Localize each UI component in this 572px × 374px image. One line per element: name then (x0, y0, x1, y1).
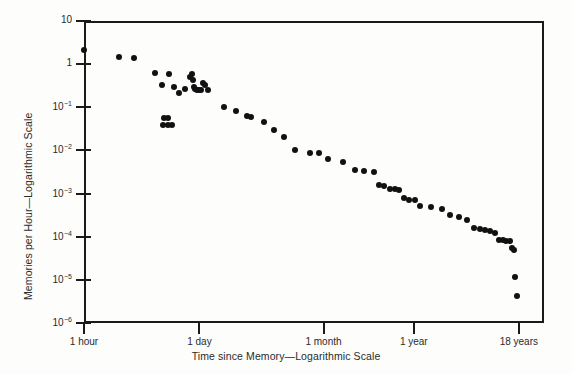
x-axis-tick-label: 1 year (400, 336, 428, 347)
data-point (190, 77, 196, 83)
scatter-plot-area (84, 21, 544, 323)
data-point (371, 169, 377, 175)
data-point (159, 82, 165, 88)
data-point (514, 293, 520, 299)
data-point (512, 274, 518, 280)
data-point (131, 55, 137, 61)
data-point (507, 238, 513, 244)
data-point (271, 127, 277, 133)
data-point (233, 108, 239, 114)
x-axis-tick-label: 1 hour (70, 336, 98, 347)
data-point (261, 119, 267, 125)
x-axis-tick-mark (83, 323, 85, 334)
data-point (412, 197, 418, 203)
data-point (171, 84, 177, 90)
data-point (152, 70, 158, 76)
data-point (221, 104, 227, 110)
data-point (182, 86, 188, 92)
data-point (439, 206, 445, 212)
data-point (316, 150, 322, 156)
data-point (292, 147, 298, 153)
data-point (325, 156, 331, 162)
data-point (169, 122, 175, 128)
data-point (198, 87, 204, 93)
x-axis-tick-label: 18 years (500, 336, 538, 347)
x-axis-tick-mark (323, 323, 325, 334)
data-point (361, 168, 367, 174)
data-point (464, 217, 470, 223)
data-point (417, 203, 423, 209)
chart-page: 10110−110−210−310−410−510−6 1 hour1 day1… (0, 0, 572, 374)
x-axis-tick-label: 1 day (187, 336, 211, 347)
y-axis-title: Memories per Hour—Logarithmic Scale (22, 113, 34, 300)
x-axis-tick-label: 1 month (305, 336, 341, 347)
x-axis-tick-mark (413, 323, 415, 334)
data-point (116, 54, 122, 60)
data-point (165, 115, 171, 121)
data-point (352, 167, 358, 173)
data-point (205, 87, 211, 93)
data-point (340, 159, 346, 165)
data-point (307, 150, 313, 156)
data-point (406, 197, 412, 203)
data-point (81, 47, 87, 53)
x-axis-title: Time since Memory—Logarithmic Scale (0, 350, 572, 362)
x-axis-tick-mark (518, 323, 520, 334)
data-point (176, 90, 182, 96)
x-axis-tick-mark (198, 323, 200, 334)
data-point (492, 230, 498, 236)
data-point (428, 204, 434, 210)
data-point (166, 71, 172, 77)
data-point (447, 212, 453, 218)
data-point (456, 214, 462, 220)
data-point (248, 114, 254, 120)
data-point (396, 187, 402, 193)
data-point (281, 134, 287, 140)
data-point (511, 247, 517, 253)
